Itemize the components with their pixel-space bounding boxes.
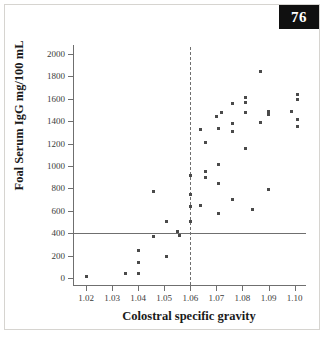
y-axis-title: Foal Serum IgG mg/100 mL xyxy=(12,11,27,221)
data-point xyxy=(217,127,220,130)
data-point xyxy=(152,190,155,193)
x-tick-mark xyxy=(190,286,191,291)
data-point xyxy=(217,212,220,215)
data-point xyxy=(290,110,293,113)
x-tick-mark xyxy=(138,286,139,291)
data-point xyxy=(152,235,155,238)
data-point xyxy=(189,193,192,196)
data-point xyxy=(165,220,168,223)
data-point xyxy=(199,204,202,207)
data-point xyxy=(296,98,299,101)
x-tick-label: 1.10 xyxy=(275,293,315,303)
data-point xyxy=(124,272,127,275)
data-point xyxy=(244,147,247,150)
data-point xyxy=(217,182,220,185)
data-point xyxy=(204,176,207,179)
data-point xyxy=(259,70,262,73)
data-point xyxy=(296,125,299,128)
x-tick-mark xyxy=(269,286,270,291)
data-point xyxy=(244,96,247,99)
data-point xyxy=(296,118,299,121)
data-point xyxy=(251,208,254,211)
data-point xyxy=(231,102,234,105)
scatter-plot-area xyxy=(73,47,305,285)
data-point xyxy=(220,111,223,114)
y-tick-label: 400 xyxy=(29,228,65,238)
data-point xyxy=(244,111,247,114)
data-point xyxy=(189,174,192,177)
data-point xyxy=(137,272,140,275)
figure-container: 76 0200400600800100012001400160018002000… xyxy=(0,0,325,339)
page-number-badge: 76 xyxy=(279,5,319,29)
x-tick-mark xyxy=(164,286,165,291)
data-point xyxy=(231,198,234,201)
data-point xyxy=(85,275,88,278)
y-tick-label: 600 xyxy=(29,206,65,216)
data-point xyxy=(204,170,207,173)
x-tick-mark xyxy=(242,286,243,291)
data-point xyxy=(215,115,218,118)
data-point xyxy=(217,163,220,166)
data-point xyxy=(296,93,299,96)
y-tick-label: 1600 xyxy=(29,94,65,104)
y-tick-label: 0 xyxy=(29,273,65,283)
data-point xyxy=(244,101,247,104)
data-point xyxy=(231,122,234,125)
y-tick-label: 1800 xyxy=(29,71,65,81)
data-point xyxy=(165,255,168,258)
data-point xyxy=(259,121,262,124)
y-tick-label: 1200 xyxy=(29,139,65,149)
x-tick-mark xyxy=(112,286,113,291)
data-point xyxy=(204,141,207,144)
y-tick-label: 1400 xyxy=(29,116,65,126)
data-point xyxy=(178,234,181,237)
y-tick-label: 2000 xyxy=(29,49,65,59)
x-axis-title: Colostral specific gravity xyxy=(60,309,318,324)
data-point xyxy=(189,205,192,208)
data-point xyxy=(267,110,270,113)
data-point xyxy=(231,130,234,133)
y-tick-label: 800 xyxy=(29,183,65,193)
data-point xyxy=(189,220,192,223)
x-tick-mark xyxy=(295,286,296,291)
data-point xyxy=(199,128,202,131)
y-tick-label: 1000 xyxy=(29,161,65,171)
x-tick-mark xyxy=(216,286,217,291)
data-point xyxy=(137,249,140,252)
y-tick-label: 200 xyxy=(29,251,65,261)
x-tick-mark xyxy=(86,286,87,291)
data-point xyxy=(137,261,140,264)
data-point xyxy=(267,188,270,191)
data-point xyxy=(267,113,270,116)
